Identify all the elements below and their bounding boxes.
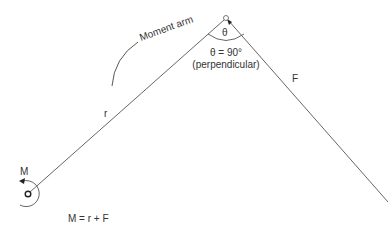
moment-arm-arc	[112, 42, 138, 86]
force-label: F	[292, 73, 298, 84]
moment-label: M	[20, 166, 28, 177]
theta-label: θ	[222, 27, 228, 38]
radius-arm-line	[30, 20, 224, 192]
pivot-icon	[25, 191, 31, 197]
formula-label: M = r + F	[68, 213, 109, 224]
apex-joint-icon	[224, 16, 229, 21]
moment-arm-label: Moment arm	[138, 13, 195, 43]
radius-label: r	[104, 108, 108, 119]
theta-value-label: θ = 90°	[210, 47, 242, 58]
moment-diagram: Moment arm θ θ = 90° (perpendicular) F r…	[0, 0, 388, 243]
moment-arrowhead-icon	[19, 178, 25, 184]
perpendicular-label: (perpendicular)	[192, 59, 259, 70]
force-line	[228, 20, 388, 202]
